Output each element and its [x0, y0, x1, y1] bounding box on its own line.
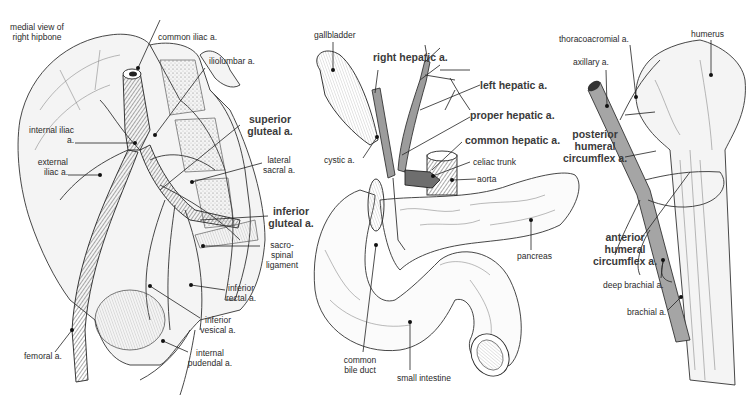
shoulder-panel — [586, 40, 745, 385]
label-lateral-sacral: lateral sacral a. — [262, 155, 296, 175]
anatomy-diagram: medial view of right hipbone common ilia… — [0, 0, 754, 407]
label-medial-view: medial view of right hipbone — [8, 22, 66, 42]
label-internal-pudendal: internal pudendal a. — [186, 348, 234, 368]
label-small-intestine: small intestine — [397, 373, 451, 383]
label-inferior-gluteal: inferior gluteal a. — [268, 205, 314, 229]
label-humerus: humerus — [691, 29, 724, 39]
label-inferior-rectal: inferior rectal a. — [224, 283, 258, 303]
label-deep-brachial: deep brachial a. — [603, 280, 664, 290]
label-external-iliac: external iliac a. — [26, 157, 68, 177]
label-sacrospinal-ligament: sacro-spinal ligament — [260, 240, 304, 270]
label-pancreas: pancreas — [517, 251, 552, 261]
label-thoracoacromial: thoracoacromial a. — [559, 34, 629, 44]
label-anterior-humeral-circumflex: anterior humeral circumflex a. — [592, 231, 658, 267]
pelvis-panel — [18, 34, 265, 395]
label-right-hepatic: right hepatic a. — [373, 51, 448, 63]
abdomen-panel — [314, 45, 579, 383]
label-proper-hepatic: proper hepatic a. — [470, 109, 555, 121]
label-femoral: femoral a. — [24, 351, 62, 361]
label-left-hepatic: left hepatic a. — [480, 79, 547, 91]
label-brachial: brachial a. — [627, 307, 666, 317]
label-superior-gluteal: superior gluteal a. — [245, 113, 295, 137]
label-common-iliac: common iliac a. — [158, 32, 217, 42]
label-aorta: aorta — [477, 174, 496, 184]
label-celiac-trunk: celiac trunk — [473, 157, 516, 167]
label-axillary: axillary a. — [573, 57, 609, 67]
label-gallbladder: gallbladder — [314, 30, 356, 40]
label-posterior-humeral-circumflex: posterior humeral circumflex a. — [562, 128, 628, 164]
label-common-hepatic: common hepatic a. — [465, 134, 560, 146]
label-common-bile-duct: common bile duct — [340, 355, 380, 375]
label-inferior-vesical: inferior vesical a. — [198, 315, 238, 335]
label-iliolumbar: iliolumbar a. — [209, 56, 255, 66]
gallbladder-organ — [317, 51, 378, 145]
label-cystic: cystic a. — [324, 155, 355, 165]
label-internal-iliac: internal iliac a. — [28, 125, 74, 145]
